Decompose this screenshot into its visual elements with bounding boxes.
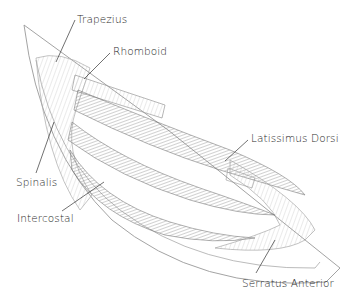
label-latissimus-dorsi: Latissimus Dorsi: [251, 132, 339, 144]
label-rhomboid: Rhomboid: [113, 45, 167, 57]
label-spinalis: Spinalis: [16, 176, 57, 188]
label-serratus-anterior: Serratus Anterior: [242, 277, 334, 289]
leader-rhomboid: [84, 53, 110, 79]
muscle-illustration: [0, 0, 358, 303]
label-trapezius: Trapezius: [77, 13, 127, 25]
label-intercostal: Intercostal: [17, 212, 74, 224]
anatomy-diagram: Trapezius Rhomboid Latissimus Dorsi Spin…: [0, 0, 358, 303]
